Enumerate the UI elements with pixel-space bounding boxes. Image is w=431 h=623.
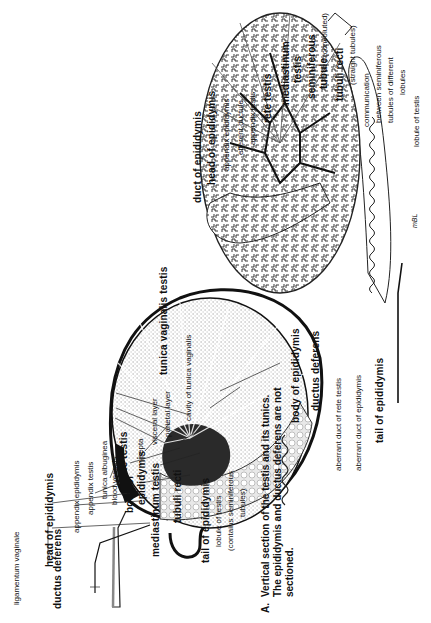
label-lobule-of-testis-right: lobule of testis: [412, 96, 421, 147]
label-tubuli-recti-left: tubuli recti: [172, 469, 183, 523]
diagram-stage: ligamentum vaginale head of epididymis a…: [0, 0, 431, 623]
label-straight-tubules: (straight tubules): [348, 25, 357, 85]
label-appendix-epididymis-left: appendix epididymis: [72, 461, 81, 534]
label-tubule: tubule: [318, 58, 329, 89]
label-tunica-vaginalis-testis: tunica vaginalis testis: [158, 266, 169, 375]
label-appendix-testis-left: appendix testis: [86, 462, 95, 515]
label-tubuli-recti-right: tubuli recti: [334, 47, 345, 101]
label-communication: communication: [362, 73, 371, 127]
label-tubules-of-different: tubules of different: [386, 57, 395, 123]
label-ductus-deferens-left: ductus deferens: [52, 529, 63, 609]
label-testis-right: testis: [292, 56, 303, 83]
label-parietal-layer: parietal layer: [163, 391, 172, 437]
label-contains-seminiferous: (contains seminiferous: [226, 471, 235, 551]
label-lobule-of-testis-left: lobule of testis: [214, 496, 223, 547]
label-aberrant-duct-rete-testis: aberrant duct of rete testis: [334, 378, 343, 471]
label-rete-testis-left: rete testis: [118, 432, 129, 481]
label-head-of-epididymis-right: head of epididymis: [206, 91, 217, 185]
label-lobules: lobules: [398, 70, 407, 95]
label-appendix-epididymis-right: appendix epididymis: [222, 99, 231, 172]
label-seminiferous: seminiferous: [306, 34, 317, 99]
label-ligamentum-vaginale: ligamentum vaginale: [12, 532, 21, 605]
label-between-seminiferous: between seminiferous: [374, 45, 383, 123]
caption-letter: A.: [260, 603, 296, 613]
label-mediastinum-testis-left: mediastinum testis: [150, 463, 161, 557]
label-epididymis-left: epididymis: [136, 451, 147, 505]
label-visceral-layer: visceral layer: [150, 398, 159, 445]
label-tail-of-epididymis-left: tail of epididymis: [200, 478, 211, 563]
caption-line-2: The epididymis and ductus deferens are n…: [272, 388, 284, 598]
label-tunica-albuginea: tunica albuginea: [100, 441, 109, 499]
caption-line-1: Vertical section of the testis and its t…: [260, 388, 272, 598]
label-convoluted: (convoluted): [320, 13, 329, 57]
label-mediastinum-right: mediastinum: [280, 41, 291, 105]
label-body-of-epididymis-right: body of epididymis: [290, 328, 301, 423]
label-tail-of-epididymis-right: tail of epididymis: [374, 358, 385, 443]
label-blood-vessels: blood vessels: [110, 457, 119, 505]
artist-signature: mBL: [410, 214, 419, 228]
label-tubules: tubules): [238, 489, 247, 517]
label-body-of: body of: [124, 475, 135, 513]
label-appendix-testis-right: appendix testis: [248, 92, 257, 145]
label-ductus-deferens-right: ductus deferens: [310, 331, 321, 411]
label-efferent-ductule: efferent ductule: [236, 100, 245, 155]
label-duct-of-epididymis: duct of epididymis: [192, 111, 203, 203]
label-aberrant-duct-epididymis: aberrant duct of epididymis: [354, 375, 363, 471]
label-rete-testis-right: rete testis: [262, 74, 273, 123]
label-cavity-of-tunica-vaginalis: cavity of tunica vaginalis: [184, 335, 193, 421]
